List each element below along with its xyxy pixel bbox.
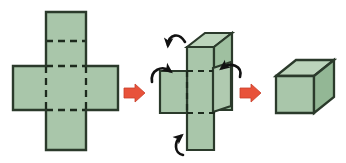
folding-diagram: Folding a rectangular net into a box fla… xyxy=(0,0,346,163)
panel-partially-folded xyxy=(152,33,241,155)
arrow-right-icon-2 xyxy=(240,84,261,102)
panel-finished-box xyxy=(276,60,334,113)
box-front-face xyxy=(276,76,314,113)
fold-left-flap xyxy=(160,71,187,113)
panel-flat-net xyxy=(13,12,118,150)
net-outline-fill xyxy=(13,12,118,150)
transition-arrow-1 xyxy=(124,84,145,102)
fold-arrow-top-icon xyxy=(168,36,185,45)
fold-vertical-strip xyxy=(187,47,214,150)
fold-right-flap xyxy=(213,62,231,112)
transition-arrow-2 xyxy=(240,84,261,102)
diagram-canvas xyxy=(0,0,346,163)
fold-arrow-bottom-icon xyxy=(176,136,183,155)
arrow-right-icon xyxy=(124,84,145,102)
